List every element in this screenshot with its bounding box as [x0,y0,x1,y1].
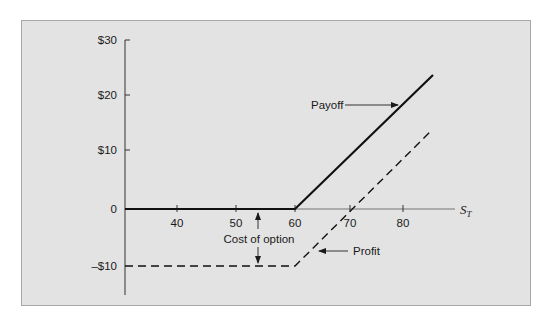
x-tick-50: 50 [230,217,243,229]
x-tick-60: 60 [289,217,302,229]
y-tick-minus10: –$10 [91,260,117,272]
payoff-line [125,75,433,209]
x-axis-label: ST [460,202,473,219]
profit-line [125,130,432,266]
y-axis: $30 $20 $10 0 –$10 [91,34,130,295]
x-tick-80: 80 [397,217,410,229]
y-tick-20: $20 [98,89,117,101]
profit-annotation: Profit [319,245,381,257]
payoff-profit-chart: $30 $20 $10 0 –$10 40 50 60 70 80 ST Pay… [0,0,549,326]
y-tick-0: 0 [111,203,117,215]
x-tick-40: 40 [171,217,184,229]
y-tick-30: $30 [98,34,117,46]
payoff-label: Payoff [311,99,344,111]
x-tick-70: 70 [344,217,357,229]
profit-label: Profit [353,245,381,257]
cost-of-option-label: Cost of option [224,233,295,245]
payoff-annotation: Payoff [311,99,398,111]
y-tick-10: $10 [98,144,117,156]
